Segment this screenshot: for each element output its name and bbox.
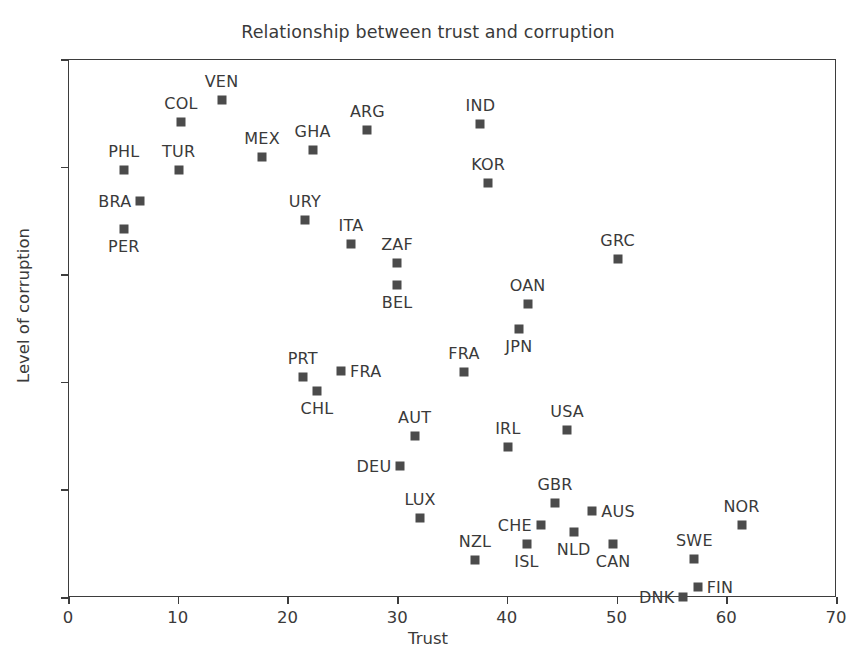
data-point-marker [174,165,183,174]
x-tick-label: 30 [387,608,408,627]
data-point-marker [136,196,145,205]
data-point-label: PRT [288,349,318,368]
data-point-label: AUS [601,502,634,521]
data-point-marker [416,514,425,523]
data-point-marker [563,425,572,434]
data-point-marker [119,224,128,233]
data-point-marker [536,520,545,529]
data-point-label: CHL [301,399,334,418]
x-tick-mark [397,597,399,604]
x-tick-label: 40 [496,608,517,627]
data-point-marker [470,556,479,565]
data-point-marker [337,366,346,375]
scatter-chart-figure: Relationship between trust and corruptio… [0,0,856,649]
data-point-label: BEL [382,293,413,312]
data-point-marker [476,120,485,129]
data-point-label: MEX [244,129,279,148]
data-point-label: VEN [205,72,239,91]
data-point-label: ZAF [381,235,413,254]
data-point-marker [258,153,267,162]
data-point-marker [176,117,185,126]
data-point-label: PER [108,237,139,256]
data-point-marker [522,540,531,549]
data-point-label: IRL [495,419,520,438]
data-point-marker [312,386,321,395]
x-tick-label: 0 [63,608,74,627]
data-point-label: TUR [162,142,195,161]
x-tick-label: 20 [277,608,298,627]
data-point-marker [690,555,699,564]
data-point-label: GRC [600,231,635,250]
data-point-label: GBR [537,475,572,494]
data-point-label: DNK [639,587,674,606]
data-point-label: PHL [108,142,139,161]
data-point-label: SWE [676,531,713,550]
data-point-label: CAN [596,552,631,571]
x-axis-label: Trust [0,629,856,648]
x-tick-label: 70 [826,608,847,627]
x-tick-mark [287,597,289,604]
data-point-marker [396,461,405,470]
x-tick-mark [507,597,509,604]
x-tick-mark [836,597,838,604]
data-point-marker [679,592,688,601]
data-point-label: CHE [498,515,532,534]
data-point-marker [693,583,702,592]
data-point-marker [298,372,307,381]
data-point-marker [503,442,512,451]
y-axis-label: Level of corruption [14,156,33,456]
data-point-marker [393,259,402,268]
x-tick-mark [178,597,180,604]
data-point-marker [410,432,419,441]
data-point-marker [609,540,618,549]
data-point-marker [217,96,226,105]
data-point-label: ITA [339,216,364,235]
data-point-marker [300,216,309,225]
data-point-marker [613,254,622,263]
data-point-marker [346,239,355,248]
data-point-label: NLD [557,540,591,559]
data-point-marker [484,178,493,187]
data-point-marker [569,527,578,536]
x-tick-label: 60 [716,608,737,627]
data-point-marker [363,126,372,135]
data-point-label: LUX [404,490,435,509]
x-tick-label: 50 [606,608,627,627]
data-point-marker [393,280,402,289]
data-point-label: DEU [357,456,392,475]
data-point-marker [551,499,560,508]
data-point-label: OAN [510,276,546,295]
data-point-label: ARG [350,102,385,121]
data-point-label: JPN [505,337,532,356]
x-tick-mark [617,597,619,604]
data-point-marker [459,367,468,376]
data-point-label: COL [164,94,197,113]
data-point-marker [588,507,597,516]
data-point-marker [523,300,532,309]
data-point-label: FIN [707,578,734,597]
data-point-marker [119,166,128,175]
x-tick-mark [726,597,728,604]
data-point-label: BRA [98,191,131,210]
data-point-label: NZL [459,532,491,551]
data-point-label: IND [466,96,496,115]
plot-area: PHLBRAPERTURCOLVENMEXGHAARGINDKORURYITAZ… [68,59,836,597]
data-point-label: ISL [514,552,538,571]
x-tick-mark [68,597,70,604]
data-point-label: FRA [350,361,381,380]
data-point-label: GHA [295,122,331,141]
data-point-marker [514,325,523,334]
data-point-label: AUT [398,408,431,427]
x-tick-label: 10 [167,608,188,627]
data-point-marker [308,145,317,154]
data-point-label: USA [550,402,584,421]
data-point-label: KOR [471,155,505,174]
data-point-marker [737,520,746,529]
data-point-label: URY [289,192,321,211]
data-point-label: FRA [448,344,479,363]
data-point-label: NOR [723,497,759,516]
